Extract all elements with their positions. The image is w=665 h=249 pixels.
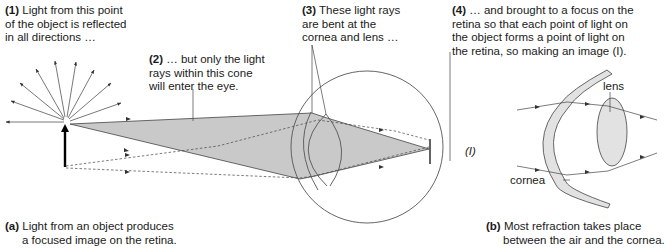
annotation-1-line-2: of the object is reflected xyxy=(5,18,126,32)
annotation-1-number: (1) xyxy=(5,4,19,16)
annotation-1: (1) Light from this point of the object … xyxy=(5,4,126,45)
annotation-4-line-2: retina so that each point of light on xyxy=(452,18,634,32)
annotation-2-number: (2) xyxy=(149,53,163,65)
light-cone xyxy=(70,113,429,179)
annotation-4: (4) … and brought to a focus on the reti… xyxy=(452,4,634,58)
caption-b-line-1: Most refraction takes place xyxy=(504,220,641,232)
caption-b-line-2: between the air and the cornea. xyxy=(486,234,665,248)
refraction-rays xyxy=(517,102,657,175)
annotation-3-number: (3) xyxy=(302,4,316,16)
caption-b: (b) Most refraction takes place between … xyxy=(486,220,665,247)
caption-a-line-2: a focused image on the retina. xyxy=(5,234,177,248)
caption-a-number: (a) xyxy=(5,220,19,232)
lens-shape xyxy=(597,98,627,166)
caption-a: (a) Light from an object produces a focu… xyxy=(5,220,177,247)
annotation-3-line-2: are bent at the xyxy=(302,18,400,32)
annotation-1-line-1: Light from this point xyxy=(22,4,122,16)
lens-label: lens xyxy=(603,80,624,93)
annotation-3-line-3: cornea and lens … xyxy=(302,31,400,45)
object-arrow xyxy=(61,124,69,167)
cornea-label: cornea xyxy=(510,174,545,187)
caption-a-line-1: Light from an object produces xyxy=(22,220,174,232)
annotation-3: (3) These light rays are bent at the cor… xyxy=(302,4,400,45)
image-label: (I) xyxy=(465,145,476,158)
annotation-4-line-1: … and brought to a focus on the xyxy=(469,4,633,16)
annotation-2-line-1: … but only the light xyxy=(166,53,264,65)
annotation-1-line-3: in all directions … xyxy=(5,31,126,45)
annotation-2-line-3: will enter the eye. xyxy=(149,80,265,94)
annotation-4-line-3: the object forms a point of light on xyxy=(452,31,634,45)
annotation-2: (2) … but only the light rays within thi… xyxy=(149,53,265,94)
annotation-3-line-1: These light rays xyxy=(319,4,400,16)
radiating-rays xyxy=(6,61,121,122)
caption-b-number: (b) xyxy=(486,220,501,232)
annotation-4-number: (4) xyxy=(452,4,466,16)
annotation-2-line-2: rays within this cone xyxy=(149,67,265,81)
annotation-4-line-4: the retina, so making an image (I). xyxy=(452,45,634,59)
